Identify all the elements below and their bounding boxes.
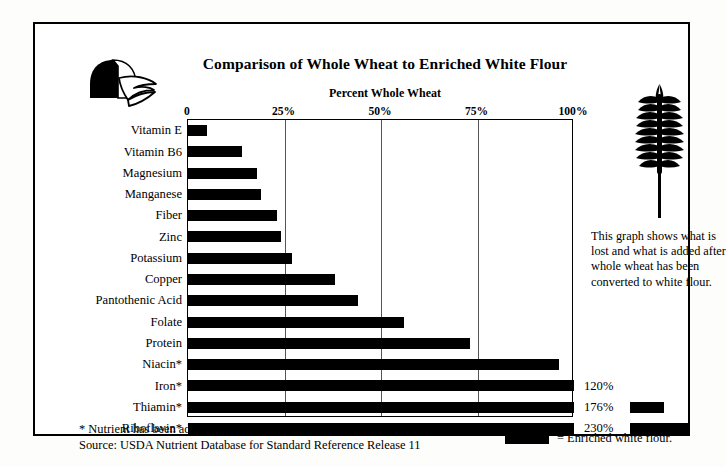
axis-title: Percent Whole Wheat: [175, 86, 595, 101]
bar-rows: Vitamin EVitamin B6MagnesiumManganeseFib…: [188, 120, 572, 416]
bar-row: Folate: [188, 311, 572, 332]
legend-label: = Enriched white flour.: [557, 431, 672, 446]
bread-loaf-icon: [82, 54, 177, 110]
category-label: Thiamin*: [133, 401, 182, 414]
bar: [188, 402, 574, 413]
bar-row: Iron*120%: [188, 375, 572, 396]
x-tick-label: 100%: [559, 105, 588, 118]
category-label: Protein: [146, 337, 182, 350]
bar: [188, 210, 277, 221]
chart-frame: Comparison of Whole Wheat to Enriched Wh…: [33, 22, 690, 436]
category-label: Iron*: [155, 380, 182, 393]
wheat-stalk-icon: [607, 80, 712, 220]
legend: = Enriched white flour.: [505, 431, 672, 446]
x-tick-label: 75%: [465, 105, 488, 118]
side-note: This graph shows what is lost and what i…: [591, 229, 726, 290]
bar-row: Pantothenic Acid: [188, 290, 572, 311]
x-tick-label: 25%: [272, 105, 295, 118]
category-label: Copper: [145, 273, 182, 286]
bar: [188, 338, 470, 349]
bar: [188, 125, 207, 136]
category-label: Magnesium: [123, 167, 182, 180]
bar-row: Vitamin E: [188, 120, 572, 141]
bar-value-label: 176%: [584, 401, 613, 414]
category-label: Folate: [151, 316, 182, 329]
bar-row: Potassium: [188, 248, 572, 269]
bar: [188, 380, 574, 391]
bar-row: Copper: [188, 269, 572, 290]
bar-row: Zinc: [188, 226, 572, 247]
bar: [188, 295, 358, 306]
bar: [188, 317, 404, 328]
bar-row: Thiamin*176%: [188, 396, 572, 417]
category-label: Niacin*: [142, 358, 182, 371]
category-label: Zinc: [159, 231, 182, 244]
category-label: Pantothenic Acid: [96, 294, 182, 307]
bar-overflow-chip: [630, 402, 664, 413]
bar-row: Niacin*: [188, 354, 572, 375]
bar: [188, 168, 257, 179]
plot-frame: Vitamin EVitamin B6MagnesiumManganeseFib…: [187, 119, 573, 417]
bar: [188, 189, 261, 200]
chart-plot-area: 025%50%75%100% Vitamin EVitamin B6Magnes…: [95, 119, 595, 419]
bar-row: Manganese: [188, 184, 572, 205]
footnote-block: * Nutrient has been added to enrich whit…: [79, 422, 479, 453]
category-label: Fiber: [155, 209, 182, 222]
page-title: Comparison of Whole Wheat to Enriched Wh…: [175, 55, 595, 73]
source-note: Source: USDA Nutrient Database for Stand…: [79, 438, 479, 454]
bar: [188, 359, 559, 370]
bar: [188, 274, 335, 285]
bar: [188, 146, 242, 157]
category-label: Manganese: [125, 188, 182, 201]
category-label: Potassium: [130, 252, 182, 265]
bar: [188, 231, 281, 242]
bar-row: Fiber: [188, 205, 572, 226]
bar-row: Protein: [188, 333, 572, 354]
x-tick-label: 50%: [368, 105, 391, 118]
bar-row: Vitamin B6: [188, 141, 572, 162]
asterisk-note: * Nutrient has been added to enrich whit…: [79, 422, 479, 438]
category-label: Vitamin E: [131, 124, 182, 137]
x-tick-label: 0: [184, 105, 190, 118]
category-label: Vitamin B6: [124, 146, 182, 159]
bar-value-label: 120%: [584, 380, 613, 393]
bar-row: Magnesium: [188, 163, 572, 184]
legend-swatch-icon: [505, 433, 549, 444]
chart-page: Comparison of Whole Wheat to Enriched Wh…: [0, 0, 726, 467]
bar: [188, 253, 292, 264]
